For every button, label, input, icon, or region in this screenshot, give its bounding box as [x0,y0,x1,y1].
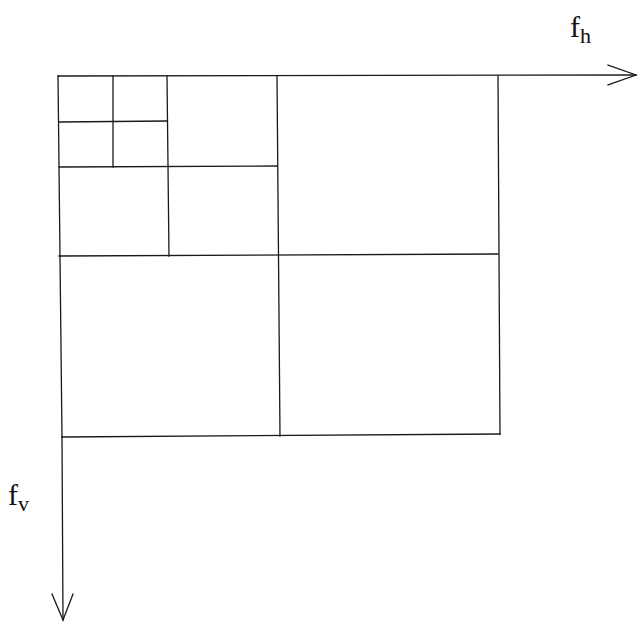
subband-diagram [0,0,641,625]
fh-axis-line [58,75,636,76]
fv-axis-label: fv [8,480,29,515]
level2-horizontal-split [59,166,277,167]
fv-symbol: f [8,478,18,511]
fv-subscript: v [18,491,29,516]
fh-subscript: h [580,23,591,48]
fv-axis-line [62,437,63,620]
outer-bottom-edge [62,434,500,437]
fh-symbol: f [570,10,580,43]
outer-right-edge [498,76,500,434]
fh-axis-label: fh [570,12,591,47]
level3-horizontal-split [59,121,167,122]
level1-vertical-split [277,76,280,436]
